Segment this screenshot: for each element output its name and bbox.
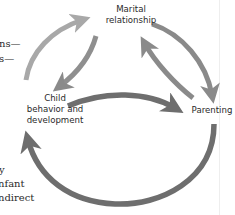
- node-marital-line1: Marital: [98, 4, 164, 15]
- node-child-line1: Child: [20, 93, 90, 104]
- node-marital-relationship: Marital relationship: [98, 4, 164, 26]
- node-parenting-line1: Parenting: [188, 105, 235, 116]
- arrow-marital-to-parenting: [152, 24, 212, 95]
- arrow-parenting-to-child: [28, 124, 214, 204]
- node-marital-line2: relationship: [98, 15, 164, 26]
- arrow-parenting-to-marital: [145, 44, 193, 98]
- node-child-behavior-development: Child behavior and development: [20, 93, 90, 126]
- node-child-line2: behavior and: [20, 104, 90, 115]
- node-parenting: Parenting: [188, 105, 235, 116]
- node-child-line3: development: [20, 115, 90, 126]
- arrow-marital-to-child: [60, 36, 96, 86]
- family-systems-diagram: ns— s— y nfant ndirect Marita: [0, 0, 235, 215]
